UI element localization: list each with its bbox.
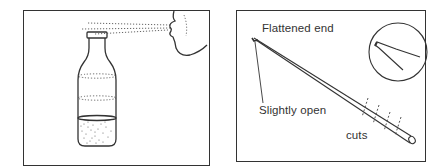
cuts-label: cuts (346, 129, 368, 141)
magnified-inset (369, 23, 427, 81)
air-vibration-rings (78, 74, 116, 100)
straw-icon (252, 38, 416, 145)
air-stream (82, 15, 187, 36)
flattened-end-label: Flattened end (262, 22, 334, 34)
slightly-open-label: Slightly open (259, 104, 326, 116)
face-profile-icon (170, 11, 207, 55)
bottle-icon (78, 32, 116, 146)
pointer-line (255, 42, 263, 103)
liquid-level (78, 116, 116, 144)
diagram-illustration (0, 0, 439, 168)
